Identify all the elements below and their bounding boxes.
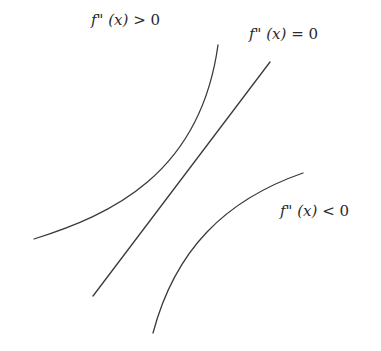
label-zero: f" (x) = 0	[249, 27, 318, 42]
label-zero-primes: "	[255, 25, 262, 43]
convex-curve	[34, 45, 218, 239]
label-negative-primes: "	[286, 202, 293, 220]
label-positive-primes: "	[97, 11, 104, 29]
concave-curve	[153, 173, 303, 333]
second-derivative-diagram	[0, 0, 381, 351]
linear-line	[93, 62, 270, 296]
label-zero-rel: = 0	[291, 25, 318, 43]
label-positive: f" (x) > 0	[91, 13, 160, 28]
label-zero-arg: (x)	[266, 25, 286, 43]
label-negative-rel: < 0	[322, 202, 349, 220]
label-positive-rel: > 0	[133, 11, 160, 29]
label-negative: f" (x) < 0	[280, 204, 349, 219]
label-positive-arg: (x)	[108, 11, 128, 29]
label-negative-arg: (x)	[297, 202, 317, 220]
